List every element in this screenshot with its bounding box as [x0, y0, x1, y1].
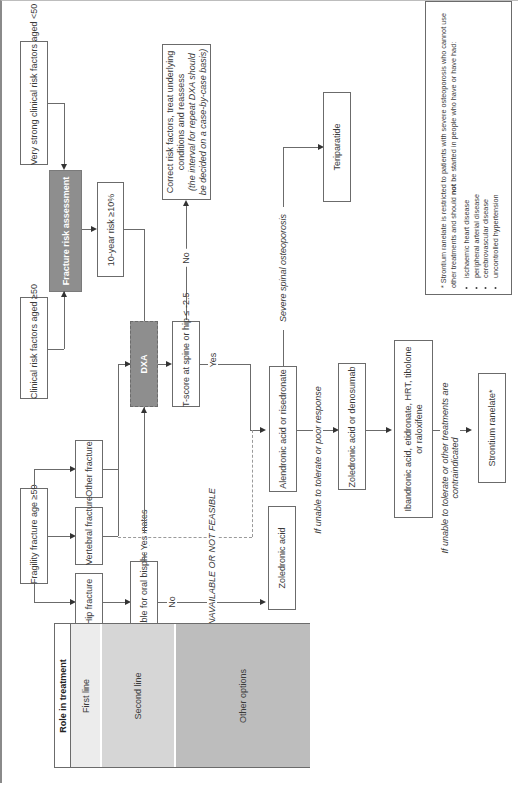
node-label: T-score at spine or hip ≤ -2.5 — [181, 293, 191, 408]
legend-label: First line — [80, 678, 90, 712]
legend-row-first-line: First line — [71, 624, 100, 767]
node-label: Other fracture — [84, 441, 94, 497]
node-label: Correct risk factors, treat underlying — [165, 44, 176, 200]
node-teriparatide: Teriparatide — [323, 92, 351, 202]
footnote-item: ischaemic heart disease — [461, 8, 471, 278]
node-correct-risk: Correct risk factors, treat underlying c… — [162, 44, 211, 200]
node-tscore: T-score at spine or hip ≤ -2.5 — [172, 321, 200, 407]
edge-label-no: No — [181, 249, 191, 267]
node-label: conditions and reassess — [176, 44, 187, 200]
node-label: Ibandronic acid, etidronate, HRT, tibolo… — [403, 340, 414, 518]
node-dxa: DXA — [130, 321, 158, 407]
node-zoledronic: Zoledronic acid — [268, 506, 296, 610]
edge-label-no: No — [167, 593, 177, 611]
footnote-item: uncontrolled hypertension — [490, 8, 500, 278]
footnote-item: peripheral arterial disease — [471, 8, 481, 278]
node-label: Very strong clinical risk factors aged <… — [29, 4, 39, 165]
node-label-italic: (the interval for repeat DXA should — [187, 44, 198, 200]
legend-row-second-line: Second line — [102, 624, 174, 767]
node-other-fracture: Other fracture — [75, 440, 103, 498]
edge-label-unable-contra: If unable to tolerate or other treatment… — [440, 380, 460, 555]
node-label: Alendronic acid or risedronate — [278, 369, 288, 489]
node-label: Fracture risk assessment — [60, 177, 70, 286]
footnote-list: ischaemic heart disease peripheral arter… — [461, 8, 499, 288]
edge-label-line: contraindicated — [450, 382, 460, 553]
node-ibandronic: Ibandronic acid, etidronate, HRT, tibolo… — [394, 340, 433, 518]
node-very-strong-risk: Very strong clinical risk factors aged <… — [20, 41, 48, 165]
legend-label: Other options — [238, 668, 248, 722]
footnote-text: * Strontium ranelate is restricted to pa… — [438, 8, 457, 288]
node-label: DXA — [139, 355, 149, 374]
node-ten-year-risk: 10-year risk ≥10% — [97, 182, 124, 277]
node-strontium: Strontium ranelate* — [478, 373, 506, 483]
node-vertebral-fracture: Vertebral fracture — [75, 507, 103, 565]
legend-label: Second line — [133, 672, 143, 719]
legend-title: Role in treatment — [57, 659, 67, 733]
node-zoledronic-denosumab: Zoledronic acid or denosumab — [338, 363, 366, 490]
node-label: Strontium ranelate* — [487, 389, 497, 466]
node-label: Zoledronic acid or denosumab — [347, 366, 357, 487]
node-fracture-risk-assessment: Fracture risk assessment — [49, 170, 82, 292]
footnote-box: * Strontium ranelate is restricted to pa… — [425, 1, 512, 295]
node-label: 10-year risk ≥10% — [105, 193, 115, 265]
footnote-part: be started in people who have or have ha… — [448, 42, 457, 184]
edge-label-severe-spinal: Severe spinal osteoporosis — [278, 214, 288, 322]
node-label: or raloxifene — [414, 340, 425, 518]
node-label: Hip fracture — [84, 579, 94, 626]
node-label: Fragility fracture age ≥50 — [29, 485, 39, 584]
footnote-item: cerebrovascular disease — [480, 8, 490, 278]
edge-label-line: If unable to tolerate or other treatment… — [440, 382, 450, 553]
node-label-italic: be decided on a case-by-case basis) — [198, 44, 209, 200]
node-alendronic: Alendronic acid or risedronate — [269, 366, 297, 492]
node-label: Clinical risk factors aged ≥50 — [29, 284, 39, 399]
legend: Role in treatment First line Second line… — [54, 623, 310, 768]
footnote-bold: not — [448, 184, 457, 195]
node-fragility-fracture: Fragility fracture age ≥50 — [20, 488, 48, 584]
legend-row-other-options: Other options — [176, 624, 310, 767]
edge-label-unable-poor: If unable to tolerate or poor response — [313, 384, 323, 536]
node-label: Teriparatide — [332, 123, 342, 170]
node-label: Zoledronic acid — [277, 527, 287, 588]
edge-label-yes: Yes — [208, 351, 218, 370]
node-label: Vertebral fracture — [84, 496, 94, 565]
node-clinical-risk: Clinical risk factors aged ≥50 — [20, 297, 48, 399]
